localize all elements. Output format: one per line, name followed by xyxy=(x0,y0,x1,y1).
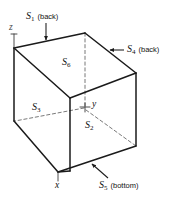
face-label-s4-subscript: 4 xyxy=(132,48,136,56)
axis-label-z: z xyxy=(9,23,13,33)
edge-bottom-front-vertical-stub xyxy=(58,171,70,172)
cube-diagram-svg xyxy=(0,0,172,201)
face-label-s5-note: (bottom) xyxy=(111,181,139,190)
face-label-s3-subscript: 3 xyxy=(37,106,41,114)
axis-label-x: x xyxy=(55,181,59,191)
axis-ticks-group xyxy=(80,103,90,112)
hidden-edge-origin-to-left xyxy=(15,108,84,121)
face-label-s2-subscript: 2 xyxy=(90,124,94,132)
cube-surface-figure: S1(back) S4(back) S5(bottom) S6 S3 S2 z … xyxy=(0,0,172,201)
face-label-s1-note: (back) xyxy=(38,12,59,21)
callout-leader-s5 xyxy=(92,164,108,178)
edge-bottom-left-to-front xyxy=(14,121,58,172)
face-label-s4-note: (back) xyxy=(139,45,160,54)
face-label-s3: S3 xyxy=(32,102,41,114)
edge-top-left-to-back xyxy=(14,33,85,48)
face-label-s5-subscript: 5 xyxy=(104,184,108,192)
face-label-s5: S5(bottom) xyxy=(99,180,138,192)
face-label-s1-subscript: 1 xyxy=(31,15,35,23)
face-label-s1: S1(back) xyxy=(26,11,58,23)
axis-label-y: y xyxy=(92,100,96,110)
face-label-s6-subscript: 6 xyxy=(67,61,71,69)
face-label-s4: S4(back) xyxy=(127,44,159,56)
face-label-s6: S6 xyxy=(62,57,71,69)
z-axis-mark-group xyxy=(11,34,17,48)
edge-top-right-to-front xyxy=(70,73,136,98)
face-label-s2: S2 xyxy=(85,120,94,132)
